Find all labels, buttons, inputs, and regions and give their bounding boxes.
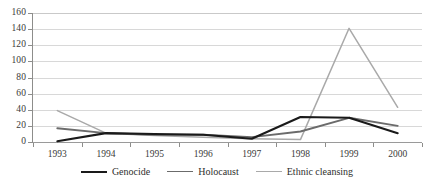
series-line-genocide [57, 117, 397, 141]
series-lines [33, 13, 422, 142]
y-axis-tick-label: 100 [0, 56, 26, 66]
x-axis-tick [130, 143, 131, 147]
line-chart: 020406080100120140160 199319941995199619… [0, 0, 434, 186]
y-axis-tick-label: 140 [0, 24, 26, 34]
legend-line-swatch [256, 171, 282, 172]
x-axis-tick-label: 1993 [48, 149, 67, 159]
x-axis-tick-label: 1998 [291, 149, 310, 159]
y-axis-tick-label: 160 [0, 8, 26, 18]
x-axis-tick [82, 143, 83, 147]
series-line-holocaust [57, 118, 397, 137]
x-axis-tick [276, 143, 277, 147]
x-axis-tick [373, 143, 374, 147]
x-axis-tick-label: 1999 [340, 149, 359, 159]
x-axis-tick-label: 1997 [242, 149, 261, 159]
x-axis-tick [228, 143, 229, 147]
x-axis-tick [33, 143, 34, 147]
x-axis-tick [179, 143, 180, 147]
y-axis-tick-label: 120 [0, 40, 26, 50]
x-axis-tick-label: 1994 [96, 149, 115, 159]
series-line-ethnic-cleansing [57, 28, 397, 139]
legend-item-label: Holocaust [198, 166, 239, 177]
legend-item-label: Genocide [112, 166, 150, 177]
x-axis-tick-label: 1995 [145, 149, 164, 159]
x-axis-tick-label: 1996 [194, 149, 213, 159]
y-axis-tick-label: 0 [0, 137, 26, 147]
legend-item-holocaust[interactable]: Holocaust [167, 166, 239, 177]
x-axis-tick-label: 2000 [388, 149, 407, 159]
legend-line-swatch [81, 171, 107, 173]
legend-item-genocide[interactable]: Genocide [81, 166, 150, 177]
y-axis-tick-label: 40 [0, 105, 26, 115]
x-axis-tick [325, 143, 326, 147]
y-axis-tick-label: 60 [0, 89, 26, 99]
y-axis-tick-label: 80 [0, 73, 26, 83]
y-axis-tick-label: 20 [0, 121, 26, 131]
legend-line-swatch [167, 171, 193, 172]
legend-item-label: Ethnic cleansing [287, 166, 353, 177]
chart-legend: GenocideHolocaustEthnic cleansing [0, 166, 434, 177]
legend-item-ethnic-cleansing[interactable]: Ethnic cleansing [256, 166, 353, 177]
plot-area [33, 13, 422, 142]
x-axis-tick [422, 143, 423, 147]
